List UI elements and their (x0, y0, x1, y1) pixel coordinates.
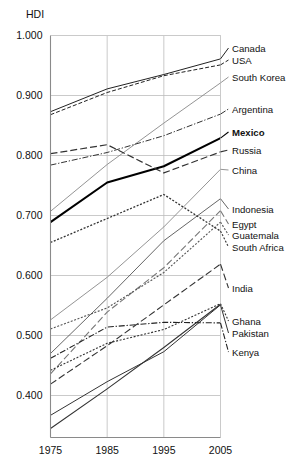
series-line (51, 195, 221, 243)
series-line (51, 59, 221, 112)
series-leader-line (221, 60, 229, 65)
series-line (51, 169, 221, 320)
series-label-egypt: Egypt (232, 220, 257, 231)
series-line (51, 114, 221, 165)
series-label-ghana: Ghana (232, 317, 261, 328)
series-leader-line (221, 264, 229, 288)
series-line (51, 305, 221, 415)
series-leader-line (221, 48, 229, 59)
series-label-indonesia: Indonesia (232, 205, 274, 216)
series-line (51, 138, 221, 222)
series-leader-line (221, 169, 229, 170)
series-leader-line (221, 109, 229, 114)
series-line (51, 145, 221, 173)
y-tick-label: 0.600 (16, 269, 42, 281)
series-line (51, 83, 221, 211)
y-tick-label: 0.700 (16, 209, 42, 221)
series-leader-line (221, 150, 229, 152)
series-leader-line (221, 199, 229, 209)
series-label-china: China (232, 166, 257, 177)
series-label-kenya: Kenya (232, 348, 259, 359)
series-leader-line (221, 77, 229, 83)
y-axis-title: HDI (26, 8, 44, 20)
y-tick-label: 0.800 (16, 149, 42, 161)
series-leader-line (221, 231, 229, 247)
series-label-india: India (232, 284, 253, 295)
series-label-south-africa: South Africa (232, 243, 284, 254)
series-leader-line (221, 132, 229, 138)
series-label-mexico: Mexico (232, 128, 265, 139)
series-label-russia: Russia (232, 146, 261, 157)
series-label-guatemala: Guatemala (232, 231, 279, 242)
label-leader-lines (221, 48, 229, 352)
x-tick-label: 2005 (209, 444, 233, 456)
y-tick-label: 0.400 (16, 389, 42, 401)
x-tick-label: 1985 (95, 444, 119, 456)
y-tick-label: 0.500 (16, 329, 42, 341)
series-label-canada: Canada (232, 44, 266, 55)
series-line (51, 199, 221, 354)
x-tick-label: 1995 (152, 444, 176, 456)
series-line (51, 304, 221, 371)
series-lines (51, 59, 221, 429)
series-label-pakistan: Pakistan (232, 329, 269, 340)
series-line (51, 322, 221, 358)
hdi-line-chart: 0.4000.5000.6000.7000.8000.9001.00019751… (0, 0, 290, 467)
series-line (51, 211, 221, 374)
y-tick-label: 0.900 (16, 89, 42, 101)
series-leader-line (221, 222, 229, 235)
x-tick-label: 1975 (39, 444, 63, 456)
series-label-argentina: Argentina (232, 105, 273, 116)
gridlines (51, 36, 221, 438)
y-tick-label: 1.000 (16, 29, 42, 41)
series-leader-line (221, 211, 229, 224)
series-label-usa: USA (232, 56, 252, 67)
series-label-south-korea: South Korea (232, 73, 285, 84)
tick-labels: 0.4000.5000.6000.7000.8000.9001.00019751… (16, 29, 232, 455)
series-line (51, 65, 221, 115)
